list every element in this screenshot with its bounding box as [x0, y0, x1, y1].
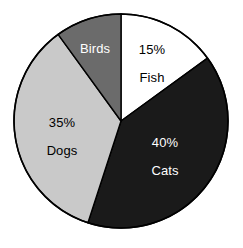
- pie-chart: 15%Fish40%Cats35%DogsBirds: [0, 0, 243, 248]
- pie-chart-canvas: [0, 0, 243, 248]
- pie-slice-group: [14, 14, 228, 228]
